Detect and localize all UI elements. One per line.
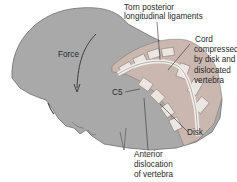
label-torn-ligaments-2: longitudinal ligaments [124,12,203,21]
label-c5: C5 [112,88,122,97]
label-torn-ligaments-1: Torn posterior [124,3,174,12]
label-anterior-2: dislocation [134,160,173,169]
label-anterior-1: Anterior [134,150,163,159]
label-disk: Disk [187,128,203,137]
diagram-canvas: Force Torn posterior longitudinal ligame… [0,0,237,182]
label-force: Force [58,50,79,59]
label-cord-5: vertebra [194,76,224,85]
label-cord-2: compressed [194,45,237,54]
label-cord-3: by disk and [194,55,235,64]
label-cord-4: dislocated [194,66,231,75]
label-cord-1: Cord [195,35,213,44]
label-anterior-3: of vertebra [134,170,173,179]
